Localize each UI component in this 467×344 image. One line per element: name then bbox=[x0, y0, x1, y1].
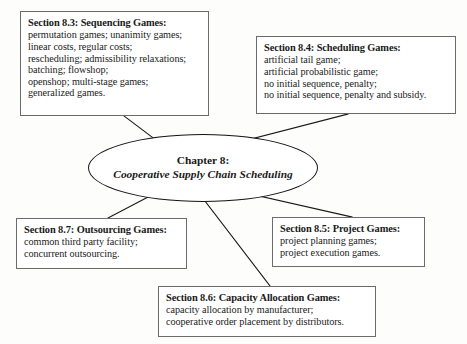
node-line: project planning games; bbox=[280, 235, 417, 247]
node-line: generalized games. bbox=[28, 87, 201, 99]
node-box-section-8-4: Section 8.4: Scheduling Games: artificia… bbox=[256, 36, 456, 114]
node-line: no initial sequence, penalty; bbox=[264, 78, 448, 90]
node-line: batching; flowshop; bbox=[28, 64, 201, 76]
node-box-section-8-7: Section 8.7: Outsourcing Games: common t… bbox=[16, 218, 187, 269]
node-line: capacity allocation by manufacturer; bbox=[166, 304, 368, 316]
connector-center-to-8-5 bbox=[255, 195, 352, 217]
node-box-section-8-6: Section 8.6: Capacity Allocation Games: … bbox=[158, 286, 376, 337]
node-line: permutation games; unanimity games; bbox=[28, 29, 201, 41]
connector-center-to-8-4 bbox=[247, 114, 348, 140]
node-line: linear costs, regular costs; bbox=[28, 41, 201, 53]
node-title-section-8-5: Section 8.5: Project Games: bbox=[280, 223, 417, 235]
node-line: no initial sequence, penalty and subsidy… bbox=[264, 89, 448, 101]
node-title-section-8-7: Section 8.7: Outsourcing Games: bbox=[24, 224, 179, 236]
node-line: artificial probabilistic game; bbox=[264, 66, 448, 78]
node-line: rescheduling; admissibility relaxations; bbox=[28, 53, 201, 65]
node-line: common third party facility; bbox=[24, 236, 179, 248]
node-line: artificial tail game; bbox=[264, 54, 448, 66]
node-line: openshop; multi-stage games; bbox=[28, 76, 201, 88]
node-line: concurrent outsourcing. bbox=[24, 248, 179, 260]
node-title-section-8-3: Section 8.3: Sequencing Games: bbox=[28, 17, 201, 29]
concept-map-diagram: Chapter 8: Cooperative Supply Chain Sche… bbox=[0, 0, 467, 344]
connector-center-to-8-6 bbox=[205, 201, 270, 286]
center-node-chapter-title: Cooperative Supply Chain Scheduling bbox=[113, 168, 292, 182]
center-node-chapter-label: Chapter 8: bbox=[177, 154, 230, 168]
connector-center-to-8-7 bbox=[108, 196, 150, 218]
node-box-section-8-3: Section 8.3: Sequencing Games: permutati… bbox=[20, 11, 209, 116]
center-node-chapter-8: Chapter 8: Cooperative Supply Chain Sche… bbox=[88, 134, 318, 202]
node-box-section-8-5: Section 8.5: Project Games: project plan… bbox=[272, 217, 425, 267]
node-title-section-8-6: Section 8.6: Capacity Allocation Games: bbox=[166, 292, 368, 304]
node-line: cooperative order placement by distribut… bbox=[166, 316, 368, 328]
node-line: project execution games. bbox=[280, 247, 417, 259]
node-title-section-8-4: Section 8.4: Scheduling Games: bbox=[264, 42, 448, 54]
